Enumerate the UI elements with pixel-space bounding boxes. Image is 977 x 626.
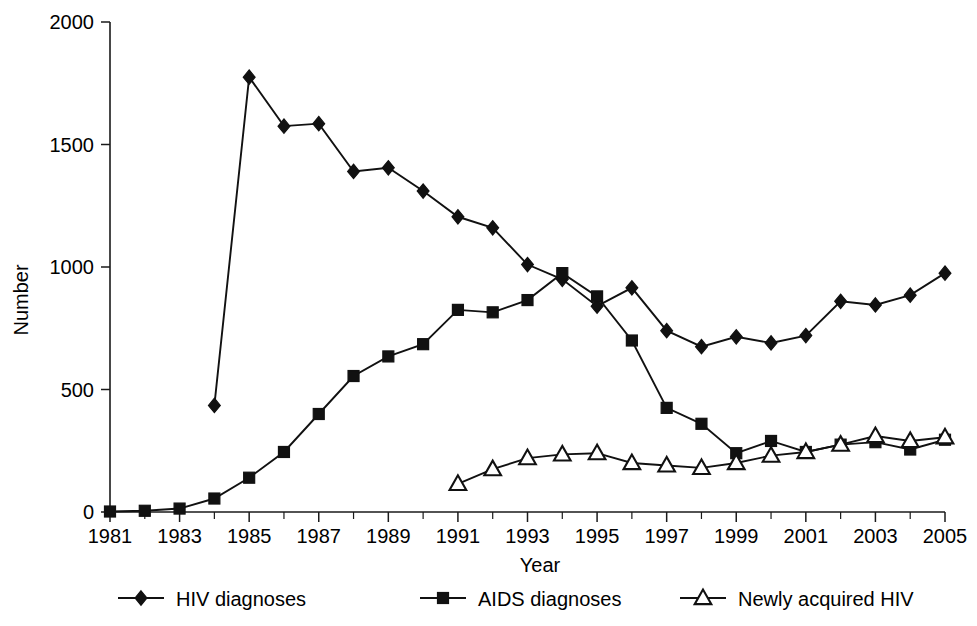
data-point-marker (174, 503, 185, 514)
chart-legend: HIV diagnosesAIDS diagnosesNewly acquire… (118, 588, 914, 610)
data-point-marker (867, 428, 884, 443)
data-point-marker (589, 445, 606, 460)
series-line (110, 273, 945, 511)
series-aids-diagnoses (105, 268, 951, 517)
legend-label: Newly acquired HIV (738, 588, 914, 610)
legend-item-newly-acquired-hiv[interactable]: Newly acquired HIV (680, 588, 914, 610)
x-tick-label: 1995 (575, 525, 620, 547)
y-tick-label: 1500 (50, 134, 95, 156)
x-tick-label: 1989 (366, 525, 411, 547)
x-tick-label: 2005 (923, 525, 968, 547)
x-tick-label: 1981 (88, 525, 133, 547)
data-point-marker (592, 291, 603, 302)
x-tick-label: 1993 (505, 525, 550, 547)
data-point-marker (696, 339, 708, 353)
data-point-marker (522, 295, 533, 306)
data-point-marker (904, 288, 916, 302)
data-point-marker (139, 505, 150, 516)
series-newly-acquired-hiv (450, 428, 954, 490)
series-line (214, 77, 945, 405)
data-series-group (105, 70, 954, 517)
data-point-marker (554, 446, 571, 461)
x-tick-label: 1983 (157, 525, 202, 547)
data-point-marker (105, 506, 116, 517)
data-point-marker (417, 184, 429, 198)
y-tick-label: 500 (61, 379, 94, 401)
legend-item-hiv-diagnoses[interactable]: HIV diagnoses (118, 588, 306, 610)
y-tick-label: 2000 (50, 11, 95, 33)
x-tick-label: 1999 (714, 525, 759, 547)
data-point-marker (765, 336, 777, 350)
data-point-marker (208, 398, 220, 412)
data-point-marker (766, 435, 777, 446)
chart-container: 0500100015002000 19811983198519871989199… (0, 0, 977, 626)
data-point-marker (278, 446, 289, 457)
x-tick-label: 1997 (644, 525, 689, 547)
x-axis: 1981198319851987198919911993199519971999… (88, 512, 968, 547)
line-chart: 0500100015002000 19811983198519871989199… (0, 0, 977, 626)
data-point-marker (418, 339, 429, 350)
x-axis-title: Year (520, 554, 561, 576)
x-tick-label: 1985 (227, 525, 272, 547)
legend-label: HIV diagnoses (176, 588, 306, 610)
legend-marker (135, 591, 147, 605)
data-point-marker (450, 475, 467, 490)
x-tick-label: 1991 (436, 525, 481, 547)
data-point-marker (557, 268, 568, 279)
x-tick-label: 2003 (853, 525, 898, 547)
data-point-marker (730, 330, 742, 344)
data-point-marker (661, 402, 672, 413)
data-point-marker (939, 266, 951, 280)
data-point-marker (383, 351, 394, 362)
data-point-marker (244, 472, 255, 483)
legend-item-aids-diagnoses[interactable]: AIDS diagnoses (420, 588, 621, 610)
data-point-marker (209, 493, 220, 504)
data-point-marker (382, 161, 394, 175)
y-tick-label: 1000 (50, 256, 95, 278)
data-point-marker (626, 335, 637, 346)
x-tick-label: 1987 (297, 525, 342, 547)
y-axis: 0500100015002000 (50, 11, 111, 523)
x-tick-label: 2001 (784, 525, 829, 547)
legend-marker (438, 593, 449, 604)
data-point-marker (452, 304, 463, 315)
data-point-marker (452, 210, 464, 224)
data-point-marker (696, 418, 707, 429)
y-tick-label: 0 (83, 501, 94, 523)
data-point-marker (348, 371, 359, 382)
data-point-marker (870, 298, 882, 312)
data-point-marker (313, 409, 324, 420)
series-hiv-diagnoses (208, 70, 950, 413)
legend-marker (695, 590, 712, 605)
data-point-marker (487, 307, 498, 318)
legend-label: AIDS diagnoses (478, 588, 621, 610)
y-axis-title: Number (10, 264, 32, 335)
